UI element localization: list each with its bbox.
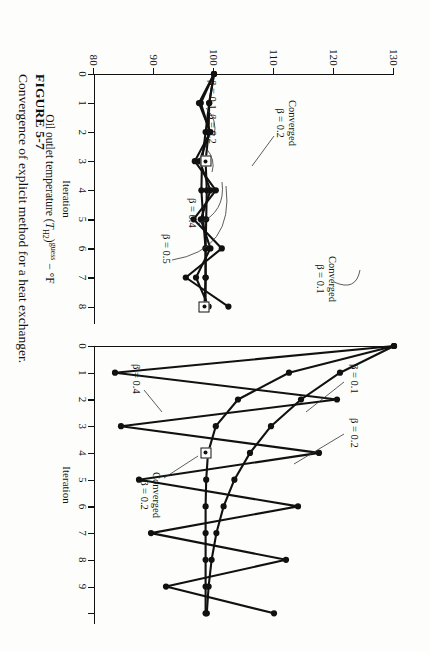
rotated-figure-wrapper: 1301201101009080 012345678 Iteration β =… xyxy=(0,0,430,652)
converged-marker xyxy=(200,447,211,458)
data-point xyxy=(334,396,340,402)
left-annotation-converged-0-2: Converged β = 0.2 xyxy=(274,100,298,146)
data-point xyxy=(221,503,227,509)
data-point xyxy=(203,530,209,536)
x-tick-label: 3 xyxy=(77,158,88,164)
data-point xyxy=(235,396,241,402)
data-point xyxy=(225,304,231,310)
figure-page: 1301201101009080 012345678 Iteration β =… xyxy=(0,0,430,652)
converged-beta: β = 0.1 xyxy=(315,264,326,294)
y-tick-label: 80 xyxy=(89,55,99,66)
right-annotation-beta-0-1: β = 0.1 xyxy=(348,364,360,394)
data-point xyxy=(163,584,169,590)
x-tick-label: 6 xyxy=(77,504,88,510)
right-x-axis-title: Iteration xyxy=(61,466,73,503)
x-tick-label: 5 xyxy=(77,477,88,483)
data-point xyxy=(391,343,397,349)
data-point xyxy=(268,423,274,429)
x-tick-label: 1 xyxy=(77,100,88,106)
figure-canvas: 1301201101009080 012345678 Iteration β =… xyxy=(0,0,430,652)
x-tick-label: 6 xyxy=(77,246,88,252)
data-point xyxy=(118,423,124,429)
data-point xyxy=(203,584,209,590)
y-tick-label: 120 xyxy=(329,49,339,66)
data-point xyxy=(209,557,215,563)
right-annotation-converged-0-2: Converged β = 0.2 xyxy=(138,472,162,518)
data-point xyxy=(247,450,253,456)
left-annotation-converged-0-1: Converged β = 0.1 xyxy=(314,256,338,302)
converged-marker xyxy=(200,156,211,167)
chart-left-panel: 1301201101009080 012345678 Iteration β =… xyxy=(94,74,394,324)
data-point xyxy=(286,370,292,376)
figure-caption: FIGURE 5-7 Convergence of explicit metho… xyxy=(15,74,48,614)
data-point xyxy=(298,396,304,402)
data-point xyxy=(213,187,219,193)
converged-beta: β = 0.2 xyxy=(139,480,150,510)
data-point xyxy=(203,503,209,509)
caption-figure-number: FIGURE 5-7 xyxy=(32,74,48,614)
right-annotation-beta-0-4: β = 0.4 xyxy=(130,364,142,394)
data-point xyxy=(193,274,199,280)
data-point xyxy=(213,423,219,429)
x-tick-label: 9 xyxy=(77,584,88,590)
y-axis-title-superscript: guess xyxy=(49,243,58,261)
data-point xyxy=(183,274,189,280)
x-tick-label: 2 xyxy=(77,397,88,403)
caption-text: Convergence of explicit method for a hea… xyxy=(15,74,31,614)
data-point xyxy=(337,370,343,376)
x-tick-label: 4 xyxy=(77,450,88,456)
data-point xyxy=(203,477,209,483)
x-tick-label: 0 xyxy=(77,343,88,349)
y-tick-label: 130 xyxy=(389,49,399,66)
data-point xyxy=(283,557,289,563)
x-tick-label: 7 xyxy=(77,275,88,281)
data-point xyxy=(207,245,213,251)
x-tick-label: 7 xyxy=(77,530,88,536)
x-tick-label: 8 xyxy=(77,304,88,310)
data-point xyxy=(203,610,209,616)
data-point xyxy=(203,274,209,280)
data-point xyxy=(271,610,277,616)
left-x-axis-title: Iteration xyxy=(61,180,73,217)
data-point xyxy=(196,100,202,106)
converged-marker xyxy=(199,301,210,312)
chart-right-panel: 0123456789 Iteration β = 0.1 β = 0.2 β =… xyxy=(94,346,394,624)
data-point xyxy=(192,158,198,164)
x-tick-label: 0 xyxy=(77,71,88,77)
left-annotation-beta-0-1: β = 0.1 xyxy=(206,80,218,110)
converged-label: Converged xyxy=(287,100,298,146)
x-tick-label: 8 xyxy=(77,557,88,563)
y-tick-label: 110 xyxy=(269,49,279,66)
data-point xyxy=(219,245,225,251)
data-point xyxy=(148,530,154,536)
data-point xyxy=(213,530,219,536)
converged-beta: β = 0.2 xyxy=(275,108,286,138)
data-point xyxy=(203,557,209,563)
x-tick-label: 1 xyxy=(77,370,88,376)
data-point xyxy=(295,503,301,509)
data-point xyxy=(112,370,118,376)
x-tick-label: 5 xyxy=(77,217,88,223)
converged-label: Converged xyxy=(151,472,162,518)
y-tick-label: 100 xyxy=(209,49,219,66)
y-tick-label: 90 xyxy=(149,55,159,66)
left-plot-svg xyxy=(94,74,394,324)
data-point xyxy=(231,477,237,483)
converged-label: Converged xyxy=(327,256,338,302)
left-annotation-beta-0-2: β = 0.2 xyxy=(206,114,218,144)
data-point xyxy=(211,71,217,77)
x-tick-label: 2 xyxy=(77,129,88,135)
data-point xyxy=(207,187,213,193)
right-annotation-beta-0-2: β = 0.2 xyxy=(348,418,360,448)
x-tick-label: 4 xyxy=(77,188,88,194)
left-annotation-beta-0-5: β = 0.5 xyxy=(160,234,172,264)
x-tick-label: 3 xyxy=(77,423,88,429)
left-annotation-beta-0-4: β = 0.4 xyxy=(186,198,198,228)
data-point xyxy=(198,187,204,193)
